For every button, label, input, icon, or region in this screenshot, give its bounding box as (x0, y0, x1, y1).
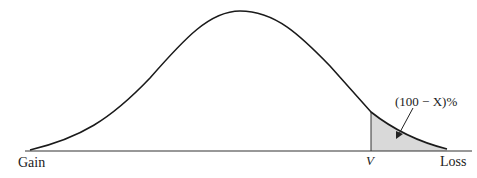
gain-label: Gain (18, 155, 45, 170)
loss-label: Loss (440, 154, 466, 169)
tail-percent-annotation: (100 − X)% (395, 94, 457, 109)
annotation-arrow-line (399, 108, 413, 134)
threshold-v-label: V (366, 153, 376, 168)
distribution-chart: Gain V Loss (100 − X)% (0, 0, 477, 178)
